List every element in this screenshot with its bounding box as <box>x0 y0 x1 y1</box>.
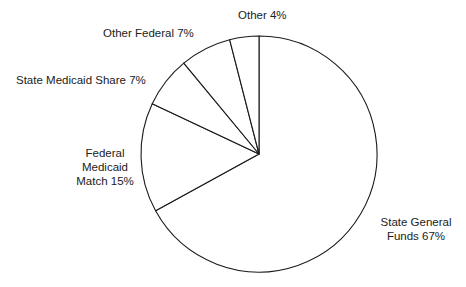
label-federal-medicaid-match: Federal Medicaid Match 15% <box>74 146 136 188</box>
label-line: Federal <box>74 146 136 160</box>
label-line: Funds 67% <box>378 229 454 243</box>
label-state-general-funds: State General Funds 67% <box>378 215 454 243</box>
label-other-federal: Other Federal 7% <box>103 26 194 40</box>
label-state-medicaid-share: State Medicaid Share 7% <box>16 73 146 87</box>
label-line: Medicaid <box>74 160 136 174</box>
label-line: State General <box>378 215 454 229</box>
label-other: Other 4% <box>238 8 287 22</box>
pie-chart <box>0 0 466 287</box>
label-line: Match 15% <box>74 174 136 188</box>
